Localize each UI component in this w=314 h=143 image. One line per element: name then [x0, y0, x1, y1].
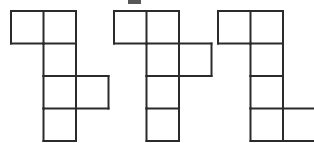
- polyomino-figures-svg: [0, 0, 314, 143]
- cell-fill: [147, 44, 180, 77]
- figure-canvas: [0, 0, 314, 143]
- cell-fill: [283, 109, 314, 142]
- figure-1: [11, 11, 109, 141]
- cell-fill: [44, 109, 77, 142]
- cell-fill: [147, 76, 180, 109]
- cell-fill: [76, 76, 109, 109]
- cell-fill: [251, 11, 284, 44]
- scan-speck-artifact: [128, 0, 141, 4]
- cell-fill: [147, 109, 180, 142]
- cell-fill: [251, 76, 284, 109]
- cell-fill: [251, 44, 284, 77]
- cell-fill: [44, 44, 77, 77]
- cell-fill: [218, 11, 251, 44]
- cell-fill: [11, 11, 44, 44]
- cell-fill: [44, 76, 77, 109]
- figure-3: [218, 11, 314, 141]
- cell-fill: [114, 11, 147, 44]
- cell-fill: [44, 11, 77, 44]
- figure-2: [114, 11, 212, 141]
- cell-fill: [147, 11, 180, 44]
- cell-fill: [179, 44, 212, 77]
- cell-fill: [251, 109, 284, 142]
